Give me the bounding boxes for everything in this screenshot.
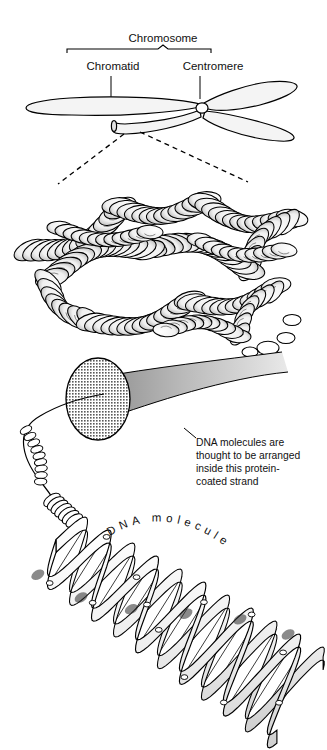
chromatid-lower-right bbox=[203, 111, 294, 141]
caption-line-3: inside this protein- bbox=[196, 463, 280, 474]
caption-line-2: thought to be arranged bbox=[196, 450, 300, 461]
chromatid-upper-left bbox=[26, 97, 200, 116]
expansion-leader-lines bbox=[58, 132, 248, 184]
coiled-chromatin-mass bbox=[11, 191, 309, 357]
caption-line-4: coated strand bbox=[196, 476, 259, 487]
chromosome-label: Chromosome bbox=[128, 32, 197, 44]
illustration-svg: Chromosome Chromatid Centromere DNA mo bbox=[0, 0, 327, 750]
descending-strand bbox=[19, 416, 85, 530]
chromosome-bracket bbox=[67, 45, 211, 53]
centromere-label: Centromere bbox=[183, 60, 244, 72]
strand-minicoil bbox=[19, 424, 85, 530]
dna-molecule-curved-label: DNA molecule bbox=[104, 512, 255, 575]
centromere bbox=[196, 103, 208, 113]
leader-dash-left bbox=[58, 134, 124, 184]
protein-coated-strand-cone bbox=[40, 352, 288, 440]
dna-molecule-label: DNA molecule bbox=[105, 512, 234, 550]
chromosome-body bbox=[26, 81, 297, 141]
cone-end-cap bbox=[66, 358, 130, 440]
chromosome-label-group: Chromosome Chromatid Centromere bbox=[67, 32, 243, 101]
chromatid-label: Chromatid bbox=[86, 60, 139, 72]
chromatid-cut-end bbox=[111, 121, 116, 132]
chromatid-upper-right bbox=[204, 81, 297, 110]
caption-line-1: DNA molecules are bbox=[196, 437, 284, 448]
caption-leader-line bbox=[184, 428, 196, 438]
strand-caption-group: DNA molecules are thought to be arranged… bbox=[184, 428, 300, 487]
figure-canvas: Chromosome Chromatid Centromere DNA mo bbox=[0, 0, 327, 750]
dna-double-helix bbox=[30, 517, 325, 748]
leader-dash-right bbox=[140, 132, 248, 182]
